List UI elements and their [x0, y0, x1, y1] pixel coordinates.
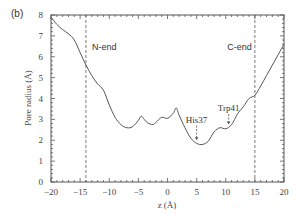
- x-tick-label: −20: [44, 187, 59, 197]
- x-tick-label: 0: [165, 187, 170, 197]
- y-tick-label: 1: [39, 156, 44, 166]
- y-tick-label: 2: [39, 135, 44, 145]
- x-tick-label: −5: [134, 187, 144, 197]
- trp41-label: Trp41: [218, 103, 240, 113]
- y-tick-label: 8: [39, 10, 44, 20]
- y-axis-label: Pore radius (Å): [23, 70, 33, 126]
- x-tick-label: 10: [221, 187, 231, 197]
- axis-tick-labels: −20−15−10−505101520012345678: [39, 10, 290, 197]
- n-end-label: N-end: [92, 42, 117, 52]
- end-markers: N-endC-end: [86, 15, 255, 182]
- y-tick-label: 0: [39, 177, 44, 187]
- y-tick-label: 4: [39, 94, 44, 104]
- his37-label: His37: [186, 115, 208, 125]
- y-tick-label: 3: [39, 114, 44, 124]
- x-tick-label: −10: [102, 187, 117, 197]
- pore-radius-chart: −20−15−10−505101520012345678 N-endC-end …: [0, 0, 301, 219]
- c-end-label: C-end: [227, 42, 252, 52]
- x-tick-label: 20: [280, 187, 290, 197]
- y-tick-label: 7: [39, 31, 44, 41]
- y-tick-label: 6: [39, 52, 44, 62]
- y-tick-label: 5: [39, 73, 44, 83]
- x-tick-label: 15: [250, 187, 260, 197]
- x-axis-label: z (Å): [158, 200, 177, 210]
- x-tick-label: 5: [194, 187, 199, 197]
- x-tick-label: −15: [73, 187, 88, 197]
